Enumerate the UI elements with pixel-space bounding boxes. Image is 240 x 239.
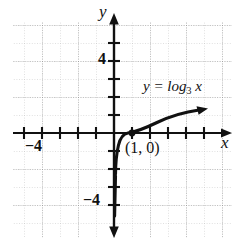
graph-canvas [0,0,240,239]
curve-equation-label: y = log3 x [143,79,202,96]
tick-label-x-neg4: −4 [25,138,42,154]
axis-label-y: y [99,3,107,20]
marked-point-1-0 [129,130,136,137]
tick-label-y-neg4: −4 [83,192,100,208]
equation-main: y = log [143,78,186,94]
grid-lines [13,22,232,238]
equation-tail: x [191,78,201,94]
axis-label-x: x [221,134,229,151]
graph-figure: y x −4 4 −4 y = log3 x (1, 0) [0,0,240,239]
tick-label-y-pos4: 4 [98,51,106,67]
point-label: (1, 0) [125,140,160,156]
